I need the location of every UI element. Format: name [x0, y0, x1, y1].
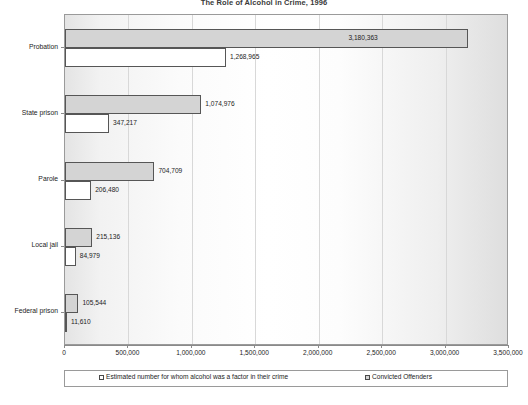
legend-item-convicted: Convicted Offenders: [365, 374, 432, 381]
category-tick: [61, 180, 64, 181]
bar-convicted-offenders: [65, 294, 78, 313]
x-axis-tick: [318, 345, 319, 348]
bar-convicted-offenders: [65, 228, 92, 247]
chart-title: The Role of Alcohol in Crime, 1996: [0, 0, 528, 7]
x-axis-line: [64, 345, 508, 346]
bar-value-label-alcohol: 11,610: [71, 319, 91, 326]
x-axis-tick-label: 500,000: [116, 350, 140, 357]
x-axis-tick-label: 3,000,000: [430, 350, 459, 357]
legend-swatch-icon-alcohol: [99, 375, 104, 380]
x-axis-tick: [127, 345, 128, 348]
x-axis-tick-label: 0: [62, 350, 66, 357]
category-tick: [61, 47, 64, 48]
bar-value-label-convicted: 215,136: [96, 234, 120, 241]
bar-alcohol-factor: [65, 48, 226, 67]
gridline: [319, 15, 320, 344]
bar-value-label-convicted: 105,544: [82, 300, 106, 307]
legend-label-alcohol: Estimated number for whom alcohol was a …: [106, 374, 288, 381]
plot-area: 3,180,3631,268,9651,074,976347,217704,70…: [64, 14, 508, 345]
bar-value-label-convicted: 704,709: [158, 168, 182, 175]
x-axis-tick-label: 1,000,000: [176, 350, 205, 357]
bar-alcohol-factor: [65, 247, 76, 266]
legend-label-convicted: Convicted Offenders: [372, 374, 432, 381]
bar-value-label-convicted: 1,074,976: [205, 101, 234, 108]
x-axis-tick-label: 2,500,000: [366, 350, 395, 357]
legend-swatch-icon-convicted: [365, 375, 370, 380]
x-axis-tick-label: 3,500,000: [493, 350, 522, 357]
bar-chart: The Role of Alcohol in Crime, 1996 3,180…: [0, 0, 528, 405]
chart-legend: Estimated number for whom alcohol was a …: [64, 370, 508, 387]
bar-alcohol-factor: [65, 313, 67, 332]
x-axis-tick-label: 1,500,000: [240, 350, 269, 357]
bar-value-label-alcohol: 347,217: [113, 120, 137, 127]
bar-convicted-offenders: [65, 95, 201, 114]
bar-value-label-alcohol: 206,480: [95, 187, 119, 194]
gridline: [255, 15, 256, 344]
x-axis-tick: [64, 345, 65, 348]
bar-convicted-offenders: [65, 162, 154, 181]
category-label-federal-prison: Federal prison: [0, 308, 58, 315]
x-axis-tick: [508, 345, 509, 348]
category-tick: [61, 113, 64, 114]
x-axis-tick: [254, 345, 255, 348]
gridline: [382, 15, 383, 344]
x-axis-tick-label: 2,000,000: [303, 350, 332, 357]
category-label-state-prison: State prison: [0, 110, 58, 117]
category-label-local-jail: Local jail: [0, 242, 58, 249]
bar-value-label-alcohol: 1,268,965: [230, 54, 259, 61]
x-axis-tick: [445, 345, 446, 348]
category-label-probation: Probation: [0, 44, 58, 51]
bar-alcohol-factor: [65, 114, 109, 133]
category-label-parole: Parole: [0, 176, 58, 183]
x-axis-tick: [191, 345, 192, 348]
bar-alcohol-factor: [65, 181, 91, 200]
bar-convicted-offenders: [65, 29, 468, 48]
category-tick: [61, 312, 64, 313]
bar-value-label-alcohol: 84,979: [80, 253, 100, 260]
legend-item-alcohol: Estimated number for whom alcohol was a …: [99, 374, 288, 381]
x-axis-tick: [381, 345, 382, 348]
gridline: [446, 15, 447, 344]
category-tick: [61, 246, 64, 247]
bar-value-label-convicted: 3,180,363: [348, 35, 377, 42]
